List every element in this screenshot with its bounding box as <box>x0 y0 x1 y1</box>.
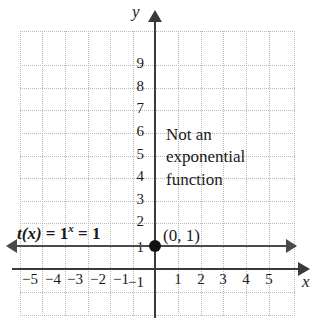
x-tick-label: −1 <box>110 272 132 287</box>
x-tick-label: −2 <box>87 272 109 287</box>
point-label-0-1: (0, 1) <box>163 226 200 246</box>
function-equals-base: = 1 <box>42 224 69 243</box>
annotation-not-exponential: Not an exponential function <box>166 124 245 191</box>
y-axis-line <box>154 18 156 318</box>
gridline-horizontal <box>20 315 295 317</box>
gridline-horizontal <box>20 110 295 112</box>
x-tick-label: −4 <box>42 272 64 287</box>
y-tick-label: 4 <box>124 169 144 184</box>
function-line-left-arrow-icon <box>6 239 17 253</box>
y-tick-label: 2 <box>124 214 144 229</box>
annotation-line-2: exponential <box>166 146 245 168</box>
x-axis-label: x <box>302 272 310 292</box>
gridline-horizontal <box>20 133 295 135</box>
y-tick-label: 6 <box>124 124 144 139</box>
function-line-right-arrow-icon <box>286 239 297 253</box>
annotation-line-1: Not an <box>166 124 245 146</box>
gridline-horizontal <box>20 88 295 90</box>
y-axis-arrow-icon <box>148 10 162 22</box>
x-tick-label: −5 <box>19 272 41 287</box>
annotation-line-3: function <box>166 169 245 191</box>
y-tick-label: 1 <box>124 240 144 255</box>
function-equals-value: = 1 <box>74 224 101 243</box>
gridline-horizontal <box>20 178 295 180</box>
point-dot-0-1 <box>149 240 161 252</box>
gridline-horizontal <box>20 292 295 294</box>
gridline-vertical <box>294 31 296 316</box>
y-tick-label: 7 <box>124 101 144 116</box>
coordinate-plane-figure: y x 9 8 7 6 5 4 3 2 1 −1 −5 −4 −3 −2 −1 … <box>0 0 322 326</box>
gridline-horizontal <box>20 65 295 67</box>
gridline-horizontal <box>20 31 295 33</box>
y-tick-label: 8 <box>124 79 144 94</box>
x-axis-line <box>12 268 302 270</box>
x-tick-label: 4 <box>235 272 257 287</box>
x-tick-label: −3 <box>64 272 86 287</box>
function-equation-label: t(x) = 1x = 1 <box>17 222 100 244</box>
function-argument: (x) <box>22 224 42 243</box>
y-tick-label: 5 <box>124 147 144 162</box>
gridline-horizontal <box>20 201 295 203</box>
gridline-horizontal <box>20 156 295 158</box>
x-tick-label: 5 <box>258 272 280 287</box>
y-tick-label: 3 <box>124 192 144 207</box>
x-tick-label: 3 <box>212 272 234 287</box>
y-axis-label: y <box>132 2 140 22</box>
y-tick-label: 9 <box>124 56 144 71</box>
x-tick-label: 1 <box>167 272 189 287</box>
x-tick-label: 2 <box>190 272 212 287</box>
